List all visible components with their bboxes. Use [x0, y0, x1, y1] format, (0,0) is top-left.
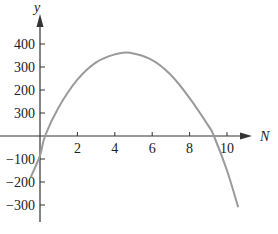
y-tick-label: 300 — [14, 60, 35, 75]
y-tick-label: 200 — [14, 83, 35, 98]
y-tick-label: −100 — [6, 152, 35, 167]
axes: Ny246810400300200300−100−200−300 — [0, 0, 270, 222]
y-tick-label: 400 — [14, 37, 35, 52]
x-tick-label: 6 — [149, 141, 156, 156]
x-tick-label: 2 — [74, 141, 81, 156]
y-axis-label: y — [32, 0, 41, 15]
x-axis-arrow-icon — [240, 133, 252, 140]
x-tick-label: 4 — [111, 141, 118, 156]
data-curve — [31, 52, 239, 207]
y-tick-label: −300 — [6, 198, 35, 213]
x-tick-label: 10 — [220, 141, 234, 156]
y-tick-label: 300 — [14, 106, 35, 121]
x-tick-label: 8 — [186, 141, 193, 156]
chart: Ny246810400300200300−100−200−300 — [0, 0, 278, 234]
y-axis-arrow-icon — [37, 14, 44, 27]
x-axis-label: N — [259, 129, 270, 144]
